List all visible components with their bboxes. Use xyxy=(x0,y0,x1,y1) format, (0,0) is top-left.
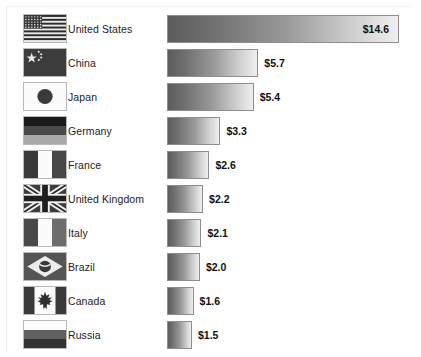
value-bar xyxy=(167,253,200,281)
bar-container: $14.6 xyxy=(167,12,399,46)
flag-germany-icon xyxy=(23,116,67,145)
chart-row: China$5.7 xyxy=(0,46,421,80)
bar-value-label: $2.2 xyxy=(209,193,229,205)
value-bar xyxy=(167,287,194,315)
country-label: United Kingdom xyxy=(68,182,144,216)
flag-france-icon xyxy=(23,150,67,179)
chart-row: United Kingdom$2.2 xyxy=(0,182,421,216)
bar-container: $5.4 xyxy=(167,80,280,114)
value-bar xyxy=(167,83,254,111)
bar-value-label: $2.1 xyxy=(207,227,227,239)
flag-united-states-icon xyxy=(23,14,67,43)
flag-canada-icon xyxy=(23,286,67,315)
country-label: Japan xyxy=(68,80,97,114)
bar-container: $2.0 xyxy=(167,250,226,284)
chart-row: Italy$2.1 xyxy=(0,216,421,250)
flag-china-icon xyxy=(23,48,67,77)
country-label: Brazil xyxy=(68,250,95,284)
bar-value-label: $1.5 xyxy=(198,329,218,341)
bar-container: $1.5 xyxy=(167,318,218,352)
chart-frame-top-border xyxy=(6,6,411,7)
bar-value-label: $5.7 xyxy=(264,57,284,69)
bar-container: $2.1 xyxy=(167,216,228,250)
chart-row: United States$14.6 xyxy=(0,12,421,46)
chart-row: Canada$1.6 xyxy=(0,284,421,318)
flag-russia-icon xyxy=(23,320,67,349)
flag-united-kingdom-icon xyxy=(23,184,67,213)
value-bar xyxy=(167,49,258,77)
bar-container: $1.6 xyxy=(167,284,220,318)
country-label: Italy xyxy=(68,216,88,250)
bar-value-label: $1.6 xyxy=(200,295,220,307)
bar-container: $2.6 xyxy=(167,148,236,182)
bar-value-label: $2.0 xyxy=(206,261,226,273)
bar-value-label: $5.4 xyxy=(260,91,280,103)
value-bar xyxy=(167,185,203,213)
flag-japan-icon xyxy=(23,82,67,111)
bar-container: $2.2 xyxy=(167,182,229,216)
value-bar xyxy=(167,151,209,179)
value-bar xyxy=(167,219,201,247)
chart-row: Russia$1.5 xyxy=(0,318,421,352)
flag-brazil-icon xyxy=(23,252,67,281)
chart-row: Germany$3.3 xyxy=(0,114,421,148)
chart-row: Brazil$2.0 xyxy=(0,250,421,284)
country-label: France xyxy=(68,148,101,182)
bar-value-label: $2.6 xyxy=(215,159,235,171)
country-label: Germany xyxy=(68,114,112,148)
country-label: Russia xyxy=(68,318,101,352)
flag-italy-icon xyxy=(23,218,67,247)
country-label: China xyxy=(68,46,96,80)
value-bar: $14.6 xyxy=(167,15,399,43)
chart-row: France$2.6 xyxy=(0,148,421,182)
country-label: Canada xyxy=(68,284,105,318)
country-label: United States xyxy=(68,12,132,46)
bar-value-label: $3.3 xyxy=(226,125,246,137)
bar-container: $5.7 xyxy=(167,46,285,80)
bar-container: $3.3 xyxy=(167,114,247,148)
value-bar xyxy=(167,321,192,349)
bar-chart: United States$14.6 China$5.7 Japan$5.4 G… xyxy=(0,0,421,357)
chart-row: Japan$5.4 xyxy=(0,80,421,114)
value-bar xyxy=(167,117,220,145)
bar-value-label: $14.6 xyxy=(363,23,398,35)
